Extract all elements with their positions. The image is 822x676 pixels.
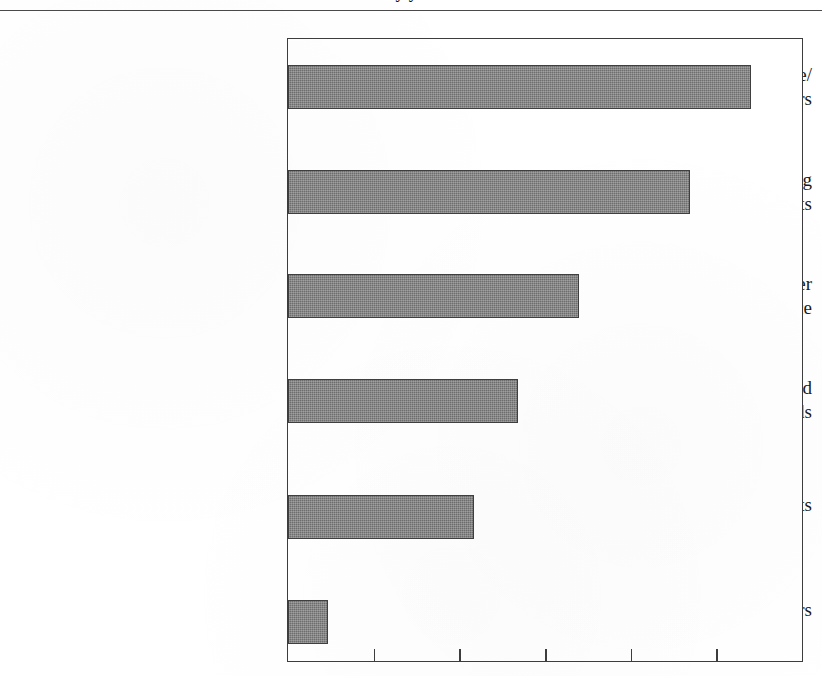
x-axis-tick [631, 649, 633, 661]
bar-black-box-fears [288, 600, 328, 644]
x-axis-tick [374, 649, 376, 661]
bar-poor-results-obtained-with-quant-methods [288, 379, 518, 423]
bar-chart: Lack of Acceptance/ Understanding by Inv… [0, 0, 822, 676]
x-axis-tick [459, 649, 461, 661]
x-axis-tick [716, 649, 718, 661]
bar-lack-of-understanding-by-consultants [288, 170, 690, 214]
plot-area [287, 38, 803, 662]
bar-do-not-deliver-stellar-performance [288, 274, 579, 318]
bar-rising-equity-markets [288, 495, 474, 539]
x-axis-tick [545, 649, 547, 661]
bar-lack-of-acceptance-understanding-by-investors [288, 65, 751, 109]
